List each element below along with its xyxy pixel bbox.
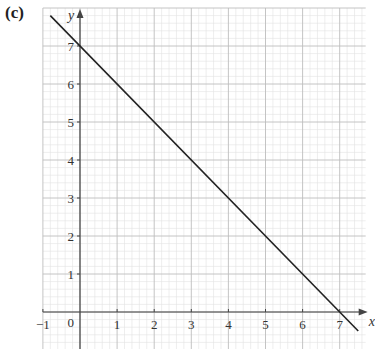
y-tick-label: 3 — [68, 191, 75, 206]
x-tick-label: 1 — [114, 317, 121, 332]
x-tick-label: 2 — [151, 317, 158, 332]
y-tick-label: 2 — [68, 229, 75, 244]
y-axis-label: y — [66, 8, 75, 23]
x-tick-label: 5 — [262, 317, 269, 332]
line-graph: −1123456712345670xy — [0, 0, 375, 349]
line-series — [50, 16, 358, 331]
x-tick-label: 3 — [188, 317, 195, 332]
y-tick-label: 4 — [68, 153, 75, 168]
x-axis-arrow-icon — [359, 309, 368, 316]
origin-label: 0 — [68, 315, 75, 330]
x-tick-label: −1 — [36, 317, 50, 332]
x-tick-label: 6 — [299, 317, 306, 332]
y-axis-arrow-icon — [77, 9, 84, 18]
x-tick-label: 4 — [225, 317, 232, 332]
y-tick-label: 6 — [68, 77, 75, 92]
axes — [43, 9, 368, 349]
y-tick-label: 7 — [68, 39, 75, 54]
minor-grid — [43, 8, 366, 349]
x-tick-label: 7 — [336, 317, 343, 332]
tick-labels: −1123456712345670xy — [36, 8, 375, 332]
y-tick-label: 5 — [68, 115, 75, 130]
x-axis-label: x — [368, 314, 375, 329]
y-tick-label: 1 — [68, 267, 75, 282]
data-series — [50, 16, 358, 331]
